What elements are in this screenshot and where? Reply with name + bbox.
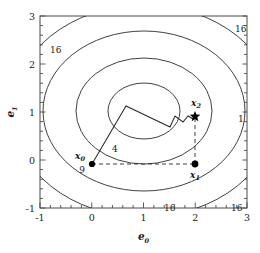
x-tick-label: 0 <box>89 212 95 223</box>
contour-plot-figure: x0 x1 x2 16 16 16 16 1 4 9 <box>0 0 260 253</box>
y-tick-label: 3 <box>29 11 35 22</box>
x-tick-labels: -1 0 1 2 3 <box>35 212 250 223</box>
marker-x1 <box>192 161 199 168</box>
y-axis-label: e1 <box>4 106 19 117</box>
contour-label-16-bottom: 16 <box>164 203 176 213</box>
y-tick-label: 1 <box>29 107 35 118</box>
y-tick-label: 2 <box>29 59 35 70</box>
contour-label-9: 9 <box>79 165 85 175</box>
plot-canvas: x0 x1 x2 16 16 16 16 1 4 9 <box>0 0 260 253</box>
y-tick-label: 0 <box>29 155 35 166</box>
contour-label-1: 1 <box>238 114 244 124</box>
x-axis-label: e0 <box>138 230 150 245</box>
x-tick-label: 3 <box>244 212 250 223</box>
y-tick-labels: -1 0 1 2 3 <box>26 11 35 214</box>
x-tick-label: 2 <box>192 212 198 223</box>
y-tick-label: -1 <box>26 203 35 214</box>
x-tick-label: 1 <box>140 212 146 223</box>
contour-label-4: 4 <box>112 144 118 154</box>
contour-label-16-topleft: 16 <box>50 45 62 55</box>
x-tick-label: -1 <box>35 212 44 223</box>
plot-frame <box>40 16 247 208</box>
marker-x0 <box>89 161 95 167</box>
